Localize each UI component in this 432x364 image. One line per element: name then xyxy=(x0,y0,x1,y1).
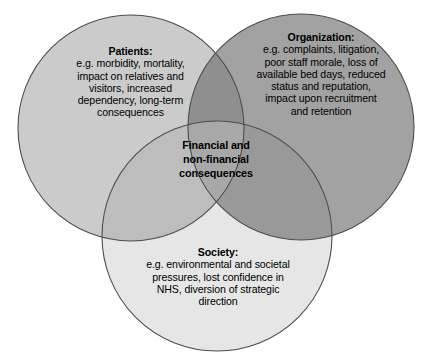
patients-line-5: consequences xyxy=(28,106,233,118)
society-title: Society: xyxy=(104,246,332,258)
organization-line-5: impact upon recruitment xyxy=(228,92,414,104)
organization-line-1: e.g. complaints, litigation, xyxy=(228,43,414,55)
patients-line-4: dependency, long-term xyxy=(28,94,233,106)
organization-set-label: Organization: e.g. complaints, litigatio… xyxy=(228,31,414,117)
patients-title: Patients: xyxy=(28,45,233,57)
organization-line-6: and retention xyxy=(228,105,414,117)
organization-line-4: status and reputation, xyxy=(228,80,414,92)
patients-line-1: e.g. morbidity, mortality, xyxy=(28,57,233,69)
patients-line-2: impact on relatives and xyxy=(28,70,233,82)
organization-line-2: poor staff morale, loss of xyxy=(228,56,414,68)
patients-set-label: Patients: e.g. morbidity, mortality, imp… xyxy=(28,45,233,119)
society-set-label: Society: e.g. environmental and societal… xyxy=(104,246,332,307)
patients-line-3: visitors, increased xyxy=(28,82,233,94)
society-line-3: NHS, diversion of strategic xyxy=(104,283,332,295)
society-line-2: pressures, lost confidence in xyxy=(104,271,332,283)
intersection-label: Financial and non-financial consequences xyxy=(151,139,281,180)
venn-diagram: Patients: e.g. morbidity, mortality, imp… xyxy=(0,0,432,364)
intersection-line-2: non-financial xyxy=(183,153,249,165)
organization-title: Organization: xyxy=(228,31,414,43)
society-line-4: direction xyxy=(104,295,332,307)
society-line-1: e.g. environmental and societal xyxy=(104,258,332,270)
organization-line-3: available bed days, reduced xyxy=(228,68,414,80)
intersection-line-1: Financial and xyxy=(182,139,250,151)
intersection-line-3: consequences xyxy=(179,167,253,179)
